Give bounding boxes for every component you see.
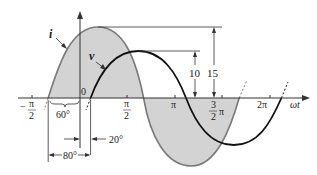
voltage-lag-angle: 20° bbox=[109, 134, 123, 145]
tick-neg-sign: − bbox=[20, 101, 26, 112]
current-lead-angle: 60° bbox=[56, 109, 70, 120]
tick-three-half-pi-pi: π bbox=[219, 106, 224, 117]
tick-half-pi-den: 2 bbox=[124, 110, 129, 121]
origin-label: 0 bbox=[81, 86, 86, 97]
current-label: i bbox=[49, 27, 53, 41]
tick-three-half-pi-num: 3 bbox=[211, 99, 216, 110]
x-axis-label: ωt bbox=[290, 99, 300, 110]
voltage-amplitude-label: 10 bbox=[189, 67, 201, 79]
tick-neg-half-pi-num: π bbox=[29, 98, 34, 109]
tick-pi: π bbox=[171, 99, 176, 110]
x-axis-arrow-icon bbox=[302, 95, 310, 101]
voltage-label: v bbox=[89, 49, 95, 63]
y-axis-arrow-icon bbox=[77, 11, 83, 19]
phase-difference-angle: 80° bbox=[63, 150, 77, 161]
tick-half-pi-num: π bbox=[124, 98, 129, 109]
tick-three-half-pi-den: 2 bbox=[211, 111, 216, 122]
tick-two-pi: 2π bbox=[257, 99, 267, 110]
tick-neg-half-pi-den: 2 bbox=[29, 110, 34, 121]
current-amplitude-label: 15 bbox=[207, 67, 219, 79]
phase-diagram: 10 15 i v 0 − π 2 π 2 π 3 2 π 2π ωt 60° … bbox=[0, 0, 317, 175]
